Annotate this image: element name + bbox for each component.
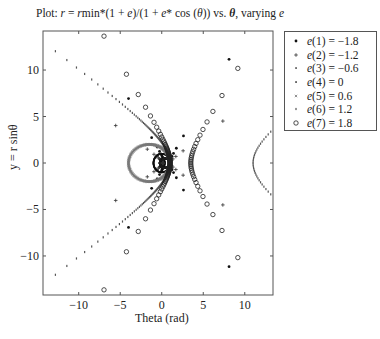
x-tick-label: −10 xyxy=(69,298,88,312)
axis-ticks: −10−505101050−5−10 xyxy=(20,31,273,312)
legend-item: e(6) = 1.2 xyxy=(291,102,376,116)
legend-item: e(2) = −1.2 xyxy=(291,48,376,62)
x-tick-label: 10 xyxy=(239,298,251,312)
x-axis-label: Theta (rad) xyxy=(135,311,189,326)
legend-label: e(2) = −1.2 xyxy=(307,49,359,61)
x-tick-label: 5 xyxy=(200,298,206,312)
legend-item: e(5) = 0.6 xyxy=(291,89,376,103)
legend-marker-icon xyxy=(291,35,305,47)
legend-marker-icon xyxy=(291,62,305,74)
legend-marker-icon xyxy=(291,117,305,129)
y-tick-label: −10 xyxy=(20,249,39,263)
y-tick-label: 5 xyxy=(33,110,39,124)
legend-label: e(3) = −0.6 xyxy=(307,62,359,74)
legend-marker-icon xyxy=(291,90,305,102)
legend-label: e(4) = 0 xyxy=(307,76,344,88)
legend-item: e(1) = −1.8 xyxy=(291,34,376,48)
x-tick-label: −5 xyxy=(114,298,127,312)
x-tick-label: 0 xyxy=(159,298,165,312)
legend-marker-icon xyxy=(291,49,305,61)
y-tick-label: 10 xyxy=(27,63,39,77)
series-1 xyxy=(127,58,230,268)
series-7 xyxy=(102,34,240,292)
legend-label: e(1) = −1.8 xyxy=(307,35,359,47)
legend-marker-icon xyxy=(291,103,305,115)
legend-item: e(4) = 0 xyxy=(291,75,376,89)
y-tick-label: −5 xyxy=(26,202,39,216)
y-axis-label: y = r sinθ xyxy=(6,124,21,170)
y-tick-label: 0 xyxy=(33,156,39,170)
legend-label: e(5) = 0.6 xyxy=(307,90,352,102)
legend-item: e(3) = −0.6 xyxy=(291,61,376,75)
legend-item: e(7) = 1.8 xyxy=(291,116,376,130)
data-series xyxy=(41,34,281,292)
legend-marker-icon xyxy=(291,76,305,88)
legend-label: e(7) = 1.8 xyxy=(307,117,352,129)
legend: e(1) = −1.8e(2) = −1.2e(3) = −0.6e(4) = … xyxy=(284,31,377,131)
legend-label: e(6) = 1.2 xyxy=(307,103,352,115)
